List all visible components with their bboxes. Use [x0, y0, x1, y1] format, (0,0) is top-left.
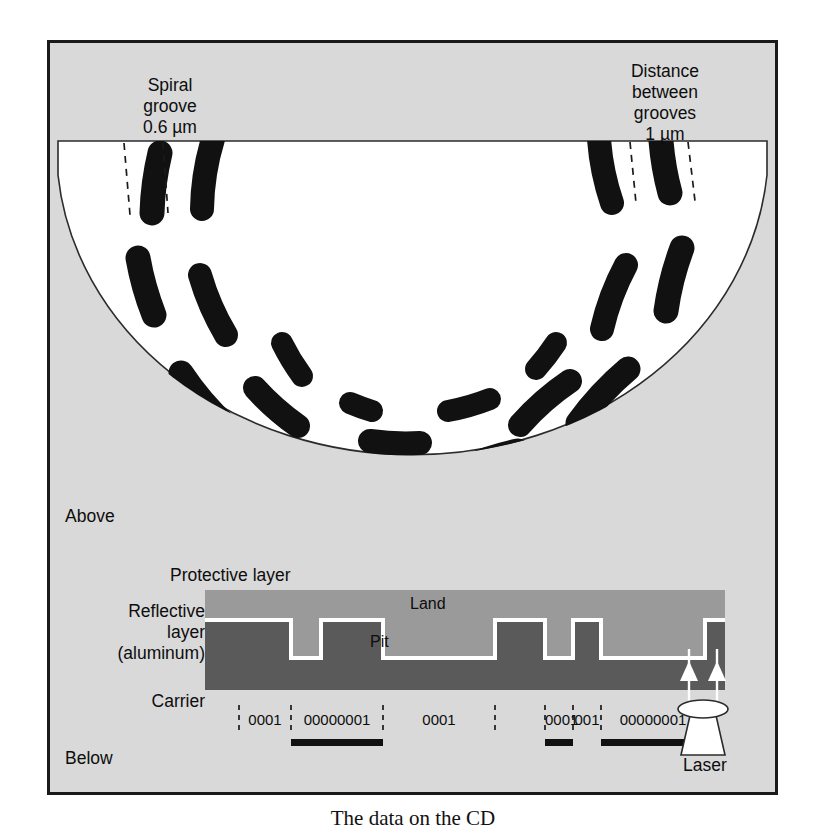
laser-svg: [645, 639, 765, 759]
label-reflective-layer: Reflective layer (aluminum): [50, 601, 205, 664]
label-above: Above: [65, 506, 115, 527]
diagram-panel: Spiral groove 0.6 µm Distance between gr…: [47, 40, 778, 795]
binary-segment: 0001: [545, 711, 573, 728]
laser-beam-arrowheads: [680, 661, 726, 681]
binary-pit-bars: [291, 739, 705, 746]
label-spiral-groove: Spiral groove 0.6 µm: [95, 75, 245, 138]
label-land: Land: [410, 595, 446, 613]
label-protective-layer: Protective layer: [170, 565, 291, 586]
binary-segment: 0001: [239, 711, 291, 728]
binary-segment: 001: [573, 711, 601, 728]
label-pit: Pit: [370, 633, 389, 651]
laser-lens: [678, 700, 728, 718]
laser-assembly: [645, 639, 765, 759]
label-carrier: Carrier: [50, 691, 205, 712]
binary-segment: 0001: [383, 711, 495, 728]
figure-caption: The data on the CD: [0, 806, 826, 835]
label-laser: Laser: [650, 755, 760, 776]
label-below: Below: [65, 748, 113, 769]
figure-root: Spiral groove 0.6 µm Distance between gr…: [0, 0, 826, 835]
label-distance-between-grooves: Distance between grooves 1 µm: [585, 61, 745, 145]
binary-segment: 00000001: [291, 711, 383, 728]
